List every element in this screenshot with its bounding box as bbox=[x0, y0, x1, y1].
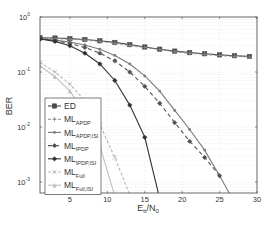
y-tick-label: 10-2 bbox=[17, 121, 30, 132]
x-tick-label: 20 bbox=[178, 195, 186, 204]
x-tick-label: 25 bbox=[215, 195, 223, 204]
y-axis-label: BER bbox=[4, 96, 14, 115]
y-tick-label: 10-1 bbox=[17, 66, 30, 77]
legend-label: ED bbox=[64, 101, 76, 111]
ber-chart: 5101520253010010-110-210-3 BER Eb/N0 EDM… bbox=[0, 0, 274, 225]
y-tick-label: 10-3 bbox=[17, 176, 30, 187]
x-tick-label: 5 bbox=[68, 195, 72, 204]
y-tick-label: 100 bbox=[19, 11, 30, 22]
legend: EDMLAPDPMLAPDP,ISIMLIPDPMLIPDP,ISIMLFull… bbox=[45, 98, 101, 194]
x-axis-label: Eb/N0 bbox=[137, 203, 159, 214]
x-tick-label: 30 bbox=[253, 195, 261, 204]
x-tick-label: 10 bbox=[103, 195, 111, 204]
